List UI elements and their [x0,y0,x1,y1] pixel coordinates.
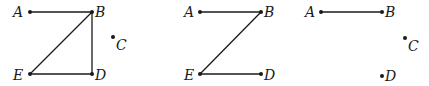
vertex-graph-3-D [380,74,384,78]
label-graph-3-A: A [303,4,315,20]
vertex-graph-1-E [28,72,32,76]
label-graph-1-B: B [94,4,105,20]
label-graph-1-D: D [94,67,106,83]
labels-layer: ABCDEABDEABCD [11,4,419,84]
label-graph-1-E: E [12,67,23,83]
vertex-graph-2-D [259,72,263,76]
label-graph-2-B: B [263,4,274,20]
label-graph-1-C: C [116,37,127,53]
edge-graph-1-BE [30,12,92,74]
vertex-graph-2-B [259,10,263,14]
label-graph-3-C: C [408,38,419,54]
vertex-graph-1-A [28,10,32,14]
vertices-layer [28,10,407,78]
vertex-graph-1-D [90,72,94,76]
label-graph-3-D: D [384,68,396,84]
vertex-graph-1-B [90,10,94,14]
vertex-graph-3-A [319,10,323,14]
vertex-graph-3-B [380,10,384,14]
vertex-graph-2-E [198,72,202,76]
label-graph-3-B: B [384,4,395,20]
vertex-graph-3-C [403,36,407,40]
label-graph-2-A: A [182,4,194,20]
label-graph-2-E: E [183,67,194,83]
graph-diagrams-canvas: ABCDEABDEABCD [0,0,429,86]
label-graph-1-A: A [11,4,23,20]
vertex-graph-1-C [111,35,115,39]
label-graph-2-D: D [263,67,275,83]
vertex-graph-2-A [198,10,202,14]
edge-graph-2-BE [200,12,261,74]
edges-layer [30,12,382,74]
